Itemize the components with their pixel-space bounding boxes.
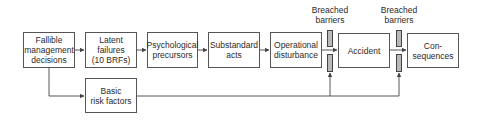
barrier-1-bottom (327, 54, 333, 72)
arrow-decisions-to-basic-risk (49, 68, 84, 96)
label-breached-barriers-1: Breached barriers (305, 6, 355, 25)
box-latent-failures: Latent failures (10 BRFs) (85, 32, 137, 68)
box-consequences: Con- sequences (407, 33, 459, 68)
barrier-2-bottom (396, 54, 402, 72)
box-substandard-acts: Substandard acts (208, 32, 260, 68)
barrier-1-top (327, 30, 333, 47)
box-operational-disturbance: Operational disturbance (270, 32, 322, 68)
box-basic-risk-factors: Basic risk factors (85, 78, 137, 113)
barrier-2-top (396, 30, 402, 47)
box-psychological-precursors: Psychological precursors (147, 32, 198, 68)
box-fallible-management-decisions: Fallible management decisions (23, 32, 75, 68)
box-accident: Accident (338, 33, 390, 68)
label-breached-barriers-2: Breached barriers (374, 6, 424, 25)
